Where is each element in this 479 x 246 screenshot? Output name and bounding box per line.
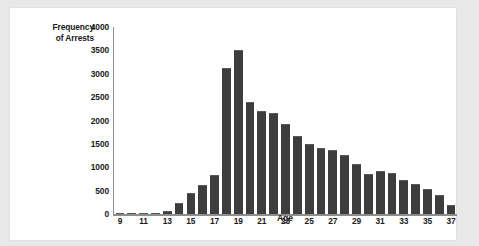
bar[interactable]: [281, 124, 290, 214]
bar-slot: [445, 27, 457, 214]
bar[interactable]: [269, 113, 278, 214]
bar-slot: [339, 27, 351, 214]
y-tick-label: 3500: [91, 45, 109, 55]
bar-slot: [232, 27, 244, 214]
bar[interactable]: [352, 164, 361, 214]
bar-slot: [268, 27, 280, 214]
y-tick-label: 500: [95, 186, 109, 196]
bar[interactable]: [411, 184, 420, 214]
bar-slot: [351, 27, 363, 214]
x-axis-label: Age: [113, 213, 457, 223]
bar-slot: [433, 27, 445, 214]
bar-slot: [197, 27, 209, 214]
y-axis-label-line2: of Arrests: [24, 33, 94, 44]
bar-slot: [280, 27, 292, 214]
bar[interactable]: [376, 171, 385, 214]
plot-area: 05001000150020002500300035004000 9 11 13…: [113, 27, 457, 214]
y-axis-label-line1: Frequency: [24, 22, 94, 33]
bar-slot: [398, 27, 410, 214]
bar[interactable]: [198, 185, 207, 214]
bar[interactable]: [187, 193, 196, 214]
bar-slot: [291, 27, 303, 214]
bar[interactable]: [317, 148, 326, 214]
y-tick-label: 1000: [91, 162, 109, 172]
bar-slot: [386, 27, 398, 214]
bar-slot: [161, 27, 173, 214]
chart-card: Frequency of Arrests 0500100015002000250…: [10, 8, 456, 240]
bar[interactable]: [364, 174, 373, 214]
bar-slot: [374, 27, 386, 214]
bar-slot: [303, 27, 315, 214]
bar[interactable]: [222, 68, 231, 214]
bar-slot: [138, 27, 150, 214]
bar-slot: [256, 27, 268, 214]
bar[interactable]: [293, 136, 302, 214]
bar-slot: [220, 27, 232, 214]
bar-slot: [315, 27, 327, 214]
y-axis-label: Frequency of Arrests: [24, 22, 94, 43]
bar-slot: [149, 27, 161, 214]
bar[interactable]: [246, 102, 255, 214]
y-tick-label: 2500: [91, 92, 109, 102]
bar[interactable]: [257, 111, 266, 214]
bar[interactable]: [210, 175, 219, 214]
figure-root: Frequency of Arrests 0500100015002000250…: [0, 0, 479, 246]
bar-slot: [173, 27, 185, 214]
bar[interactable]: [399, 180, 408, 214]
bar-slot: [327, 27, 339, 214]
y-tick-label: 3000: [91, 69, 109, 79]
bar[interactable]: [388, 173, 397, 214]
y-tick-label: 4000: [91, 22, 109, 32]
bar[interactable]: [340, 155, 349, 214]
bar-series: [114, 27, 457, 214]
bar[interactable]: [234, 50, 243, 214]
bar-slot: [422, 27, 434, 214]
y-tick-label: 2000: [91, 116, 109, 126]
bar-slot: [114, 27, 126, 214]
bar-slot: [244, 27, 256, 214]
bar-slot: [362, 27, 374, 214]
y-tick-label: 0: [104, 209, 109, 219]
bar[interactable]: [435, 195, 444, 214]
bar-slot: [410, 27, 422, 214]
bar[interactable]: [305, 144, 314, 214]
bar-slot: [185, 27, 197, 214]
bar-slot: [209, 27, 221, 214]
bar[interactable]: [328, 150, 337, 214]
y-tick-label: 1500: [91, 139, 109, 149]
bar-slot: [126, 27, 138, 214]
bar[interactable]: [423, 189, 432, 214]
